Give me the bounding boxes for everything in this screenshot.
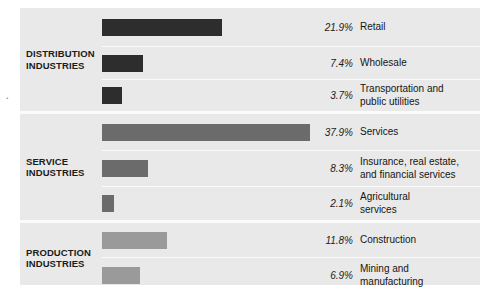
bar (102, 232, 167, 249)
group-label-cell: DISTRIBUTION INDUSTRIES (20, 8, 102, 111)
chart-row: 6.9%Mining and manufacturing (102, 257, 480, 293)
bar-value-label: 11.8% (314, 235, 360, 246)
bar-cell (102, 151, 314, 186)
bar-category-label: Insurance, real estate, and financial se… (360, 156, 480, 181)
bar (102, 19, 222, 36)
group-label: PRODUCTION INDUSTRIES (26, 247, 91, 270)
chart-row: 2.1%Agricultural services (102, 186, 480, 220)
group-label: SERVICE INDUSTRIES (26, 156, 85, 179)
bar-chart-panel: DISTRIBUTION INDUSTRIES21.9%Retail7.4%Wh… (20, 8, 480, 285)
bar-cell (102, 223, 314, 257)
bar (102, 160, 148, 177)
bar-cell (102, 114, 314, 150)
bar-cell (102, 80, 314, 111)
group-rows: 37.9%Services8.3%Insurance, real estate,… (102, 114, 480, 220)
industry-group: PRODUCTION INDUSTRIES11.8%Construction6.… (20, 220, 480, 293)
bar-category-label: Retail (360, 21, 480, 34)
bar (102, 87, 122, 104)
bar-cell (102, 47, 314, 79)
bar-value-label: 2.1% (314, 198, 360, 209)
chart-row: 21.9%Retail (102, 8, 480, 46)
group-label-cell: PRODUCTION INDUSTRIES (20, 223, 102, 293)
bar-value-label: 7.4% (314, 58, 360, 69)
bar (102, 55, 143, 72)
bar-category-label: Services (360, 126, 480, 139)
chart-row: 3.7%Transportation and public utilities (102, 79, 480, 111)
bar-value-label: 8.3% (314, 163, 360, 174)
bar-category-label: Mining and manufacturing (360, 263, 480, 288)
bar (102, 267, 140, 284)
bar (102, 124, 310, 141)
bar-value-label: 37.9% (314, 127, 360, 138)
bar-cell (102, 187, 314, 220)
chart-row: 37.9%Services (102, 114, 480, 150)
bar-category-label: Wholesale (360, 57, 480, 70)
bar-cell (102, 8, 314, 46)
bar-category-label: Agricultural services (360, 191, 480, 216)
chart-row: 7.4%Wholesale (102, 46, 480, 79)
bar (102, 195, 114, 212)
bar-category-label: Construction (360, 234, 480, 247)
group-rows: 21.9%Retail7.4%Wholesale3.7%Transportati… (102, 8, 480, 111)
industry-group: DISTRIBUTION INDUSTRIES21.9%Retail7.4%Wh… (20, 8, 480, 111)
group-label-cell: SERVICE INDUSTRIES (20, 114, 102, 220)
bar-value-label: 3.7% (314, 90, 360, 101)
bar-cell (102, 258, 314, 293)
chart-row: 11.8%Construction (102, 223, 480, 257)
bar-category-label: Transportation and public utilities (360, 83, 480, 108)
group-label: DISTRIBUTION INDUSTRIES (26, 48, 95, 71)
industry-group: SERVICE INDUSTRIES37.9%Services8.3%Insur… (20, 111, 480, 220)
bar-value-label: 6.9% (314, 270, 360, 281)
scan-artifact: . (6, 92, 13, 101)
bar-value-label: 21.9% (314, 22, 360, 33)
group-rows: 11.8%Construction6.9%Mining and manufact… (102, 223, 480, 293)
chart-row: 8.3%Insurance, real estate, and financia… (102, 150, 480, 186)
